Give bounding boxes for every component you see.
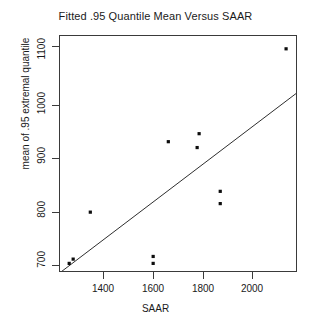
data-point	[284, 47, 287, 50]
data-point	[219, 190, 222, 193]
x-tick-mark-1600	[153, 272, 154, 279]
plot-area	[59, 35, 297, 272]
data-point	[196, 146, 199, 149]
data-point	[72, 258, 75, 261]
x-axis-label: SAAR	[0, 303, 311, 314]
x-tick-label-2000: 2000	[241, 283, 263, 294]
x-tick-mark-1400	[103, 272, 104, 279]
x-tick-label-1800: 1800	[192, 283, 214, 294]
x-tick-mark-2000	[252, 272, 253, 279]
data-point	[167, 140, 170, 143]
y-tick-mark-900	[52, 158, 59, 159]
x-tick-mark-1800	[203, 272, 204, 279]
y-tick-label-900: 900	[36, 147, 47, 164]
y-tick-mark-1100	[52, 46, 59, 47]
y-tick-label-1100: 1100	[36, 38, 47, 60]
scatter-plot-figure: Fitted .95 Quantile Mean Versus SAAR mea…	[0, 0, 311, 327]
one-to-one-line	[61, 92, 297, 272]
y-tick-label-700: 700	[36, 251, 47, 268]
data-point	[152, 255, 155, 258]
data-points-group	[68, 47, 288, 265]
data-point	[152, 262, 155, 265]
x-tick-label-1400: 1400	[92, 283, 114, 294]
data-point	[68, 262, 71, 265]
chart-title: Fitted .95 Quantile Mean Versus SAAR	[0, 10, 311, 22]
y-tick-mark-800	[52, 212, 59, 213]
y-tick-label-1000: 1000	[36, 92, 47, 114]
y-tick-label-800: 800	[36, 201, 47, 218]
data-point	[219, 202, 222, 205]
plot-canvas	[60, 36, 297, 272]
x-tick-label-1600: 1600	[142, 283, 164, 294]
data-point	[198, 132, 201, 135]
y-tick-mark-700	[52, 265, 59, 266]
y-tick-mark-1000	[52, 105, 59, 106]
data-point	[89, 211, 92, 214]
y-axis-label: mean of .95 extremal quantile	[20, 19, 31, 189]
